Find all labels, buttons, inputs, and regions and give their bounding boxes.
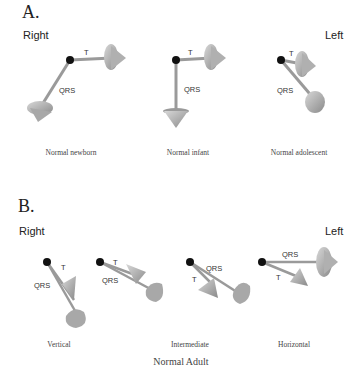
t-label: T <box>84 48 89 57</box>
caption-infant: Normal infant <box>167 148 209 157</box>
adolescent-vectors: T QRS <box>277 49 325 113</box>
vertical-vectors: T QRS <box>34 258 86 328</box>
qrs-label: QRS <box>282 250 298 259</box>
panel-b-subtitle: Normal Adult <box>153 356 208 367</box>
qrs-label: QRS <box>34 281 50 290</box>
infant-vectors: T QRS <box>163 44 226 128</box>
vector-diagram: T QRS T QRS T QRS T QRS <box>0 0 358 372</box>
qrs-label: QRS <box>184 85 200 94</box>
t-label: T <box>289 49 294 58</box>
panel-b-right-label: Right <box>19 225 45 237</box>
caption-adolescent: Normal adolescent <box>271 148 327 157</box>
qrs-label: QRS <box>102 276 118 285</box>
t-label: T <box>113 258 118 267</box>
caption-intermediate: Intermediate <box>171 340 209 349</box>
qrs-label: QRS <box>277 86 293 95</box>
t-label: T <box>188 48 193 57</box>
qrs-label: QRS <box>59 86 75 95</box>
t-label: T <box>61 263 66 272</box>
horizontal-vectors: QRS T <box>258 247 338 286</box>
intermediate-vectors: T QRS <box>96 258 163 302</box>
t-label: T <box>276 273 281 282</box>
newborn-vectors: T QRS <box>27 44 126 122</box>
caption-vertical: Vertical <box>47 340 70 349</box>
panel-b-label: B. <box>18 196 35 217</box>
panel-b-left-label: Left <box>325 225 343 237</box>
intermediate-vectors-2: QRS T <box>186 258 250 304</box>
caption-horizontal: Horizontal <box>278 340 310 349</box>
qrs-label: QRS <box>206 264 222 273</box>
t-label: T <box>192 275 197 284</box>
caption-newborn: Normal newborn <box>45 148 96 157</box>
